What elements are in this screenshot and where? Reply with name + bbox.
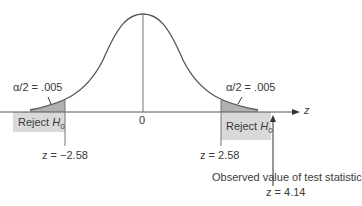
right-critical-label: z = 2.58 xyxy=(200,149,239,161)
observed-caption: Observed value of test statistic xyxy=(212,171,362,183)
center-tick-label: 0 xyxy=(139,114,145,126)
observed-value: z = 4.14 xyxy=(266,186,305,198)
z-axis-arrow-icon xyxy=(292,109,300,115)
left-critical-label: z = −2.58 xyxy=(42,149,88,161)
left-alpha-label: α/2 = .005 xyxy=(13,81,62,93)
axis-label: z xyxy=(304,104,310,116)
left-reject-label: Reject H0 xyxy=(18,116,65,131)
normal-curve xyxy=(30,14,258,110)
right-alpha-pointer xyxy=(238,97,242,104)
right-alpha-label: α/2 = .005 xyxy=(226,81,275,93)
left-alpha-pointer xyxy=(48,97,51,104)
right-reject-label: Reject H0 xyxy=(226,120,273,135)
